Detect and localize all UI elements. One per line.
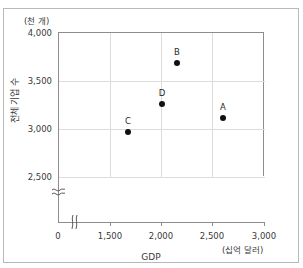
x-tick-label-3000: 3,000 — [244, 231, 284, 241]
data-point-A — [220, 115, 226, 121]
x-tick-mark-3000 — [264, 222, 265, 226]
x-tick-label-2000: 2,000 — [141, 231, 181, 241]
x-tick-mark-2500 — [212, 222, 213, 226]
x-axis-break-icon — [68, 214, 82, 230]
gridline-y-3000 — [59, 129, 265, 130]
data-point-B — [174, 60, 180, 66]
x-tick-mark-2000 — [161, 222, 162, 226]
data-point-label-D: D — [152, 88, 172, 98]
cropped-caption-text — [45, 0, 260, 4]
data-point-label-C: C — [118, 116, 138, 126]
data-point-C — [125, 129, 131, 135]
x-axis-title: GDP — [121, 252, 181, 262]
y-tick-label-3500: 3,500 — [0, 76, 52, 86]
x-tick-mark-1500 — [110, 222, 111, 226]
gridline-x-1500 — [110, 33, 111, 177]
plot-area: B D A C — [58, 32, 264, 176]
y-axis-unit-label: (천 개) — [24, 14, 49, 26]
x-tick-label-2500: 2,500 — [192, 231, 232, 241]
data-point-label-B: B — [167, 47, 187, 57]
data-point-D — [159, 101, 165, 107]
y-axis-break-icon — [50, 185, 67, 199]
gridline-y-3500 — [59, 81, 265, 82]
y-tick-label-3000: 3,000 — [0, 124, 52, 134]
gridline-y-2500 — [59, 177, 265, 178]
data-point-label-A: A — [213, 102, 233, 112]
x-tick-label-0: 0 — [38, 231, 78, 241]
y-axis-lower-segment — [58, 176, 59, 222]
y-tick-label-4000: 4,000 — [0, 28, 52, 38]
x-axis-unit-label: (십억 달러) — [222, 243, 263, 255]
x-tick-label-1500: 1,500 — [90, 231, 130, 241]
scatter-chart-figure: (천 개) 전체 기업 수 4,000 3,500 3,000 2,500 B … — [0, 0, 303, 268]
y-tick-label-2500: 2,500 — [0, 172, 52, 182]
